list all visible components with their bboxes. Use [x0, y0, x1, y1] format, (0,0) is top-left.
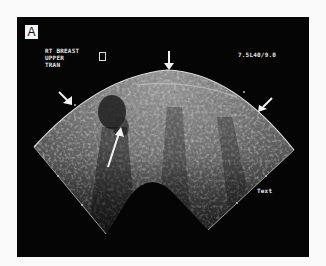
probe-settings-label: 7.5L40/9.0 — [238, 51, 276, 58]
panel-label: A — [25, 25, 38, 39]
region-label: UPPER — [45, 54, 64, 61]
plane-label: TRAN — [45, 61, 60, 68]
top-arrow-icon — [164, 51, 174, 70]
ultrasound-panel: A RT BREAST UPPER TRAN 7.5L40/9.0 Text — [17, 17, 309, 257]
right-arrow-icon — [258, 98, 272, 112]
side-label: RT BREAST — [45, 47, 79, 54]
text-marker-label: Text — [257, 187, 272, 194]
tissue-region — [17, 57, 309, 257]
left-arrow-icon — [59, 92, 72, 105]
scan-location-annotation: RT BREAST UPPER TRAN — [45, 47, 79, 68]
body-marker-icon — [99, 52, 106, 61]
